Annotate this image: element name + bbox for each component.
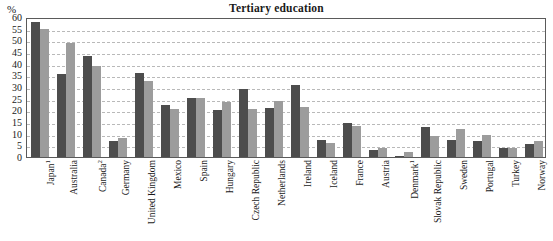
bar bbox=[378, 148, 387, 157]
bar-group bbox=[287, 19, 313, 157]
x-axis-label: Canada2 bbox=[95, 160, 108, 192]
bar bbox=[83, 56, 92, 158]
x-axis-label: Austria bbox=[381, 160, 391, 188]
x-axis-label: Netherlands bbox=[277, 160, 287, 206]
bar bbox=[265, 108, 274, 157]
y-axis-tick: 55 bbox=[12, 25, 22, 35]
bar bbox=[274, 101, 283, 157]
x-axis-labels: Japan1AustraliaCanada2GermanyUnited King… bbox=[26, 160, 546, 240]
x-axis-label: Portugal bbox=[485, 160, 495, 192]
y-axis-tick: 30 bbox=[12, 83, 22, 93]
x-axis-label: Spain bbox=[199, 160, 209, 182]
bar bbox=[135, 73, 144, 157]
bar-group bbox=[53, 19, 79, 157]
x-axis-label: Ireland bbox=[303, 160, 313, 187]
bar bbox=[144, 81, 153, 157]
y-axis-tick: 20 bbox=[12, 106, 22, 116]
y-axis-tick: 45 bbox=[12, 48, 22, 58]
y-axis-tick: 35 bbox=[12, 71, 22, 81]
bar bbox=[213, 110, 222, 157]
bar bbox=[300, 107, 309, 157]
bar-group bbox=[495, 19, 521, 157]
y-axis-tick: 50 bbox=[12, 36, 22, 46]
x-axis-label: Japan1 bbox=[43, 160, 56, 185]
bar bbox=[326, 143, 335, 157]
bar bbox=[369, 150, 378, 157]
x-axis-label: Czech Republic bbox=[251, 160, 261, 220]
bar bbox=[343, 123, 352, 157]
bar-group bbox=[443, 19, 469, 157]
bar-group bbox=[183, 19, 209, 157]
bar bbox=[482, 135, 491, 157]
bar-group bbox=[391, 19, 417, 157]
x-axis-label: Slovak Republic bbox=[433, 160, 443, 223]
bar-group bbox=[365, 19, 391, 157]
bar bbox=[31, 22, 40, 157]
bar-group bbox=[79, 19, 105, 157]
bar-group bbox=[469, 19, 495, 157]
y-axis-tick: 5 bbox=[17, 141, 22, 151]
x-axis-label: Germany bbox=[121, 160, 131, 195]
bar bbox=[109, 141, 118, 157]
bar bbox=[187, 98, 196, 158]
bar bbox=[222, 102, 231, 157]
bar bbox=[447, 140, 456, 158]
y-axis: 605550454035302520151050 bbox=[0, 18, 24, 158]
bar bbox=[248, 109, 257, 157]
bar-group bbox=[27, 19, 53, 157]
bar-group bbox=[235, 19, 261, 157]
x-axis-label: Norway bbox=[537, 160, 547, 191]
bar-group bbox=[339, 19, 365, 157]
chart-title: Tertiary education bbox=[0, 2, 553, 14]
bar-group bbox=[313, 19, 339, 157]
x-axis-label: Sweden bbox=[459, 160, 469, 190]
bar bbox=[57, 74, 66, 157]
bar bbox=[170, 109, 179, 157]
bar-group bbox=[261, 19, 287, 157]
bar-group bbox=[131, 19, 157, 157]
bar bbox=[118, 138, 127, 157]
bar bbox=[40, 29, 49, 157]
bar bbox=[473, 141, 482, 157]
bar bbox=[404, 152, 413, 157]
bar-group bbox=[209, 19, 235, 157]
bar bbox=[534, 141, 543, 157]
y-axis-tick: 0 bbox=[17, 153, 22, 163]
bar bbox=[161, 105, 170, 158]
y-axis-tick: 40 bbox=[12, 60, 22, 70]
y-axis-tick: 10 bbox=[12, 130, 22, 140]
x-axis-label: United Kingdom bbox=[147, 160, 157, 224]
bar-group bbox=[157, 19, 183, 157]
x-axis-label: Hungary bbox=[225, 160, 235, 193]
bar-group bbox=[417, 19, 443, 157]
bar bbox=[239, 89, 248, 157]
bar bbox=[525, 144, 534, 157]
bar bbox=[499, 148, 508, 157]
x-axis-label: France bbox=[355, 160, 365, 186]
bars-layer bbox=[27, 19, 545, 157]
bar bbox=[395, 156, 404, 157]
bar bbox=[291, 85, 300, 157]
x-axis-label: Turkey bbox=[511, 160, 521, 187]
bar bbox=[92, 66, 101, 157]
bar bbox=[430, 136, 439, 157]
bar bbox=[196, 98, 205, 158]
bar bbox=[66, 43, 75, 157]
y-axis-tick: 60 bbox=[12, 13, 22, 23]
bar-group bbox=[105, 19, 131, 157]
bar-group bbox=[521, 19, 547, 157]
plot-area bbox=[26, 18, 546, 158]
bar bbox=[317, 140, 326, 158]
bar bbox=[421, 127, 430, 157]
x-axis-label: Mexico bbox=[173, 160, 183, 189]
x-axis-label: Denmark1 bbox=[407, 160, 420, 199]
x-axis-label: Australia bbox=[69, 160, 79, 195]
bar bbox=[456, 129, 465, 157]
tertiary-education-chart: Tertiary education % 6055504540353025201… bbox=[0, 0, 553, 241]
bar bbox=[508, 148, 517, 157]
bar bbox=[352, 126, 361, 158]
x-axis-label: Iceland bbox=[329, 160, 339, 188]
y-axis-tick: 15 bbox=[12, 118, 22, 128]
y-axis-tick: 25 bbox=[12, 95, 22, 105]
